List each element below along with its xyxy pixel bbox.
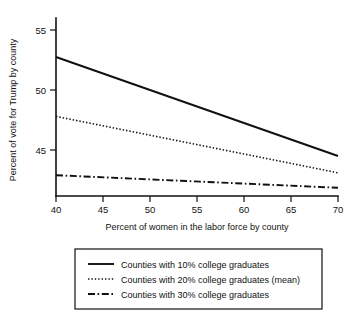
x-tick-label-65: 65 xyxy=(286,204,297,215)
x-tick-label-60: 60 xyxy=(239,204,250,215)
x-tick-label-55: 55 xyxy=(192,204,203,215)
y-tick-label-55: 55 xyxy=(35,25,46,36)
chart-background xyxy=(0,0,362,318)
legend-label-0: Counties with 10% college graduates xyxy=(121,260,270,270)
y-tick-label-45: 45 xyxy=(35,145,46,156)
x-tick-label-45: 45 xyxy=(98,204,109,215)
x-tick-label-40: 40 xyxy=(51,204,62,215)
x-axis-title: Percent of women in the labor force by c… xyxy=(105,222,289,232)
line-chart-figure: Percent of vote for Trump by county 55 5… xyxy=(0,0,362,318)
x-tick-label-70: 70 xyxy=(333,204,344,215)
y-axis-title: Percent of vote for Trump by county xyxy=(8,38,18,181)
legend-label-1: Counties with 20% college graduates (mea… xyxy=(121,275,300,285)
y-tick-label-50: 50 xyxy=(35,85,46,96)
legend-label-2: Counties with 30% college graduates xyxy=(121,290,270,300)
x-tick-label-50: 50 xyxy=(145,204,156,215)
